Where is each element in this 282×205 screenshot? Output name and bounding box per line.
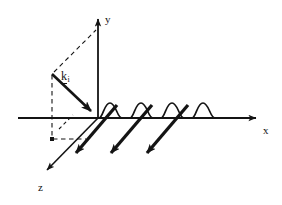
z-axis-line [47, 118, 98, 170]
ray-arrow-3 [147, 105, 188, 153]
z-axis-label: z [38, 182, 43, 193]
z-parallel-rays [76, 105, 188, 153]
coordinate-diagram-svg [0, 0, 282, 205]
y-axis-label: y [105, 14, 111, 25]
ki-arrow-line [52, 74, 91, 111]
x-axis-label: x [263, 125, 269, 136]
construction-lines [52, 30, 96, 139]
dashed-line-to-y-axis [54, 30, 96, 72]
ki-label-subscript: i [67, 75, 70, 84]
projection-point-marker [50, 137, 54, 141]
ray-arrow-1 [76, 105, 117, 153]
incident-wavevector-arrow [52, 74, 91, 111]
incident-wavevector-label: ki [61, 70, 70, 84]
z-axis [47, 118, 98, 170]
figure-canvas: y x z ki [0, 0, 282, 205]
